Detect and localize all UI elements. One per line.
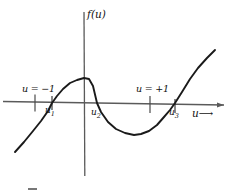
x-axis-arrowhead: [217, 103, 224, 108]
root-label-u3: u3: [169, 108, 179, 119]
figure-container: f(u) u⟶ u = −1 u = +1 u1 u2 u3: [0, 0, 227, 195]
tick-label-u-plus-1: u = +1: [136, 84, 169, 94]
y-axis-line: [84, 12, 85, 176]
x-axis-line: [3, 102, 224, 106]
root-label-u1-sub: 1: [51, 110, 55, 118]
tick-label-u-minus-1: u = −1: [22, 84, 55, 94]
x-axis-label: u⟶: [192, 108, 212, 119]
function-plot: [0, 0, 227, 195]
root-label-u3-sub: 3: [175, 112, 179, 120]
function-curve: [15, 50, 215, 152]
root-label-u2: u2: [91, 108, 101, 119]
x-axis-label-text: u: [192, 107, 199, 119]
root-label-u2-sub: 2: [97, 112, 101, 120]
y-axis-label: f(u): [87, 9, 106, 20]
caption-fragment-mark: [28, 188, 37, 190]
root-label-u1: u1: [45, 106, 55, 117]
right-arrow-icon: ⟶: [199, 108, 212, 119]
